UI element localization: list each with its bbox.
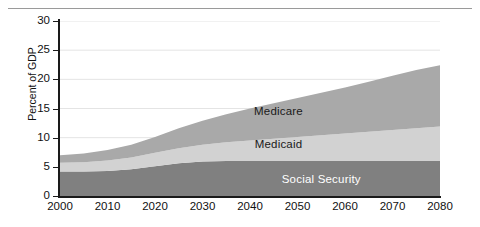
series-label-social-security: Social Security [282, 173, 361, 185]
plot-area [60, 21, 440, 196]
chart-figure: Percent of GDP 051015202530 200020102020… [0, 0, 480, 227]
y-tick-label: 25 [28, 44, 50, 55]
x-tick-label: 2060 [321, 200, 369, 212]
series-label-medicare: Medicare [254, 105, 303, 117]
y-tick-mark [53, 196, 59, 197]
x-axis-line [58, 196, 441, 198]
y-tick-mark [53, 167, 59, 168]
y-tick-label: 5 [28, 161, 50, 172]
area-series-group [60, 65, 440, 196]
x-tick-label: 2040 [226, 200, 274, 212]
x-tick-label: 2000 [36, 200, 84, 212]
x-tick-label: 2030 [179, 200, 227, 212]
y-axis-tick-labels: 051015202530 [22, 0, 50, 227]
x-tick-label: 2080 [416, 200, 464, 212]
y-tick-label: 15 [28, 103, 50, 114]
y-tick-label: 10 [28, 132, 50, 143]
top-divider-rule [8, 8, 472, 9]
y-tick-mark [53, 50, 59, 51]
y-tick-mark [53, 109, 59, 110]
x-tick-label: 2020 [131, 200, 179, 212]
x-tick-label: 2010 [84, 200, 132, 212]
x-tick-label: 2050 [274, 200, 322, 212]
y-tick-mark [53, 138, 59, 139]
series-label-medicaid: Medicaid [255, 138, 303, 150]
stacked-area-svg [60, 21, 440, 196]
y-tick-mark [53, 79, 59, 80]
y-tick-label: 30 [28, 15, 50, 26]
y-tick-mark [53, 21, 59, 22]
y-tick-label: 20 [28, 73, 50, 84]
x-tick-label: 2070 [369, 200, 417, 212]
